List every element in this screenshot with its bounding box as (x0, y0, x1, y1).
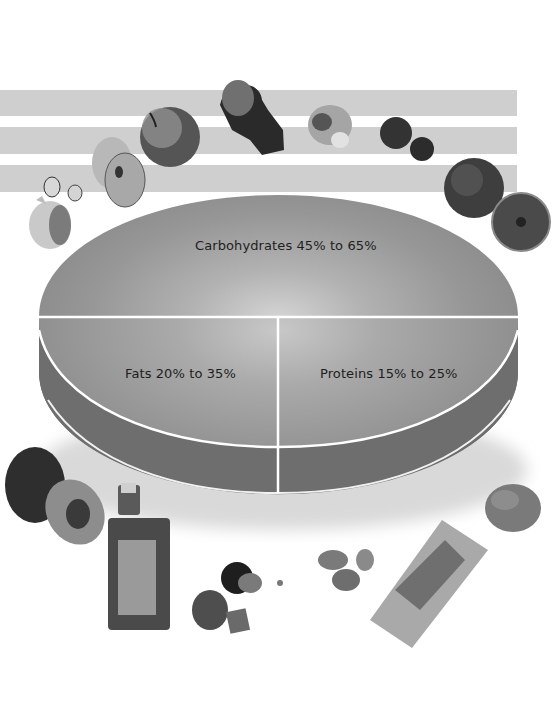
apple-halves-icon (92, 137, 145, 207)
almonds-icon (318, 549, 374, 591)
label-carbohydrates: Carbohydrates 45% to 65% (195, 238, 377, 253)
orange-half-icon (492, 193, 550, 251)
pie-chart-svg (0, 0, 560, 711)
walnuts-icon (192, 562, 283, 634)
blueberries-icon (380, 117, 434, 161)
garlic-icon (29, 177, 82, 249)
apple-icon (140, 107, 200, 167)
pie-slice-carbohydrates (39, 195, 518, 317)
macronutrient-chart-figure: Carbohydrates 45% to 65% Fats 20% to 35%… (0, 0, 560, 711)
label-fats: Fats 20% to 35% (125, 366, 236, 381)
salmon-fillet-icon (370, 520, 488, 648)
egg-icon (485, 484, 541, 532)
artichoke-icon (220, 80, 284, 155)
label-proteins: Proteins 15% to 25% (320, 366, 457, 381)
cauliflower-icon (308, 105, 352, 148)
